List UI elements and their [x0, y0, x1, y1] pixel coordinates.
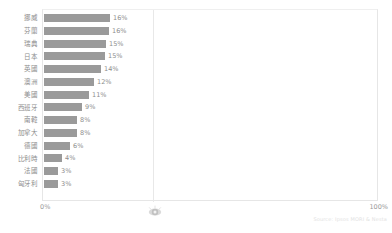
- bar-value-label: 3%: [61, 167, 71, 175]
- bar-value-label: 16%: [113, 14, 127, 22]
- bar-value-label: 8%: [80, 116, 90, 124]
- axis-tick-min: 0%: [40, 203, 50, 211]
- bar-container: 8%: [44, 116, 90, 124]
- bar-container: 6%: [44, 142, 83, 150]
- bar-value-label: 9%: [85, 103, 95, 111]
- bar-chart-rows: 挪威16%芬蘭16%瑞典15%日本15%英國14%澳洲12%美國11%西班牙9%…: [0, 12, 392, 198]
- bar-category-label: 南韓: [0, 116, 38, 124]
- bar-row: 法國3%: [0, 165, 392, 178]
- bar-container: 14%: [44, 65, 118, 73]
- bar: [44, 78, 94, 86]
- bar-value-label: 15%: [108, 52, 122, 60]
- bar: [44, 129, 77, 137]
- header-strip: [0, 0, 392, 9]
- bar-category-label: 德國: [0, 142, 38, 150]
- bar-value-label: 12%: [97, 78, 111, 86]
- bar: [44, 91, 89, 99]
- bar-container: 15%: [44, 52, 122, 60]
- bar: [44, 103, 82, 111]
- bar-category-label: 美國: [0, 91, 38, 99]
- bar: [44, 167, 58, 175]
- bar-container: 4%: [44, 154, 75, 162]
- bar-category-label: 芬蘭: [0, 27, 38, 35]
- axis-tick-max: 100%: [369, 203, 388, 211]
- bar-category-label: 日本: [0, 53, 38, 61]
- bar: [44, 180, 58, 188]
- bar-row: 瑞典15%: [0, 38, 392, 51]
- bar-row: 美國11%: [0, 89, 392, 102]
- bar-category-label: 加拿大: [0, 129, 38, 137]
- bar: [44, 65, 101, 73]
- bar-value-label: 6%: [73, 142, 83, 150]
- bar-container: 16%: [44, 27, 126, 35]
- bar-category-label: 西班牙: [0, 104, 38, 112]
- bar-category-label: 澳洲: [0, 78, 38, 86]
- bar-row: 日本15%: [0, 50, 392, 63]
- bar: [44, 40, 106, 48]
- bar-category-label: 瑞典: [0, 40, 38, 48]
- bar-row: 匈牙利3%: [0, 178, 392, 191]
- bar-row: 西班牙9%: [0, 101, 392, 114]
- bar-container: 3%: [44, 167, 71, 175]
- bar: [44, 142, 70, 150]
- bar-value-label: 15%: [109, 40, 123, 48]
- bar-category-label: 挪威: [0, 14, 38, 22]
- bar-container: 12%: [44, 78, 111, 86]
- bar-category-label: 法國: [0, 167, 38, 175]
- bar-value-label: 4%: [65, 154, 75, 162]
- bar-value-label: 3%: [61, 180, 71, 188]
- cursor-icon: [147, 203, 163, 216]
- bar-row: 澳洲12%: [0, 76, 392, 89]
- bar-row: 比利時4%: [0, 152, 392, 165]
- bar-row: 德國6%: [0, 140, 392, 153]
- source-note: Source: Ipsos MORI & Nesta: [313, 216, 387, 222]
- bar-row: 挪威16%: [0, 12, 392, 25]
- bar-category-label: 英國: [0, 65, 38, 73]
- x-axis: 0% 100%: [0, 203, 392, 215]
- bar-value-label: 14%: [104, 65, 118, 73]
- bar-row: 加拿大8%: [0, 127, 392, 140]
- bar-container: 9%: [44, 103, 95, 111]
- bar-value-label: 8%: [80, 129, 90, 137]
- bar-container: 11%: [44, 91, 106, 99]
- bar-container: 15%: [44, 40, 123, 48]
- bar-container: 16%: [44, 14, 127, 22]
- bar-row: 芬蘭16%: [0, 25, 392, 38]
- bar-value-label: 11%: [92, 91, 106, 99]
- bar-category-label: 比利時: [0, 155, 38, 163]
- bar: [44, 14, 110, 22]
- bar: [44, 116, 77, 124]
- bar: [44, 27, 109, 35]
- bar-category-label: 匈牙利: [0, 180, 38, 188]
- bar: [44, 52, 105, 60]
- bar-row: 英國14%: [0, 63, 392, 76]
- bar-container: 3%: [44, 180, 71, 188]
- bar: [44, 154, 62, 162]
- bar-container: 8%: [44, 129, 90, 137]
- bar-value-label: 16%: [112, 27, 126, 35]
- bar-row: 南韓8%: [0, 114, 392, 127]
